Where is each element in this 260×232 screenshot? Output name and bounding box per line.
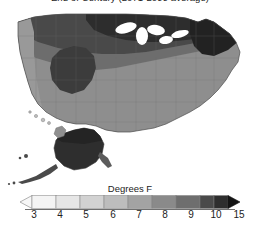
legend: Degrees F (0, 183, 260, 232)
tick-label: 6 (110, 209, 116, 220)
tick-label: 10 (210, 209, 221, 220)
colorbar-bands (32, 196, 228, 209)
colorbar-low-extend (20, 196, 32, 209)
map-svg (0, 6, 260, 186)
us-warming-map (0, 6, 260, 186)
tick-label: 15 (233, 209, 244, 220)
tick-label: 3 (31, 209, 37, 220)
alaska-panhandle (98, 152, 112, 168)
tick-label: 9 (188, 209, 194, 220)
climate-projection-figure: End of Century (2071-2099 average) (0, 0, 260, 232)
tick-label: 5 (83, 209, 89, 220)
legend-title: Degrees F (0, 183, 260, 194)
colorbar-ticks: 3 4 5 6 7 8 9 10 15 (20, 209, 240, 225)
colorbar (20, 195, 240, 209)
figure-title: End of Century (2071-2099 average) (0, 0, 260, 3)
conus-region (12, 8, 250, 146)
tick-label: 4 (57, 209, 63, 220)
colorbar-svg (20, 195, 240, 209)
tick-label: 7 (136, 209, 142, 220)
aleutian-islands (8, 154, 58, 185)
colorbar-high-extend (228, 196, 240, 209)
tick-label: 8 (162, 209, 168, 220)
